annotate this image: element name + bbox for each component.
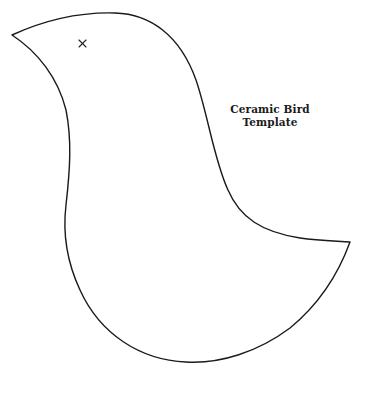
template-title: Ceramic Bird Template — [215, 103, 325, 129]
title-line-1: Ceramic Bird — [215, 103, 325, 116]
eye-x-marker — [79, 40, 86, 47]
bird-outline — [12, 13, 350, 362]
title-line-2: Template — [215, 116, 325, 129]
bird-template-canvas — [0, 0, 371, 394]
